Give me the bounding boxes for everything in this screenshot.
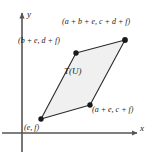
vertex-dot-bottom-left (38, 116, 43, 121)
vertex-dot-top-right (122, 37, 128, 43)
y-axis-label: y (27, 10, 31, 19)
vertex-label-bottom-left: (e, f) (24, 124, 39, 132)
vertex-dot-top-left (73, 50, 78, 55)
transformed-parallelogram-figure: y x T(U) (a + b + e, c + d + f) (b + e, … (0, 0, 153, 157)
vertex-label-top-left: (b + e, d + f) (18, 37, 60, 45)
x-axis-label: x (140, 124, 144, 133)
region-label: T(U) (64, 67, 82, 76)
vertex-label-top-right: (a + b + e, c + d + f) (62, 18, 130, 26)
vertex-label-bottom-right: (a + e, c + f) (92, 106, 133, 114)
